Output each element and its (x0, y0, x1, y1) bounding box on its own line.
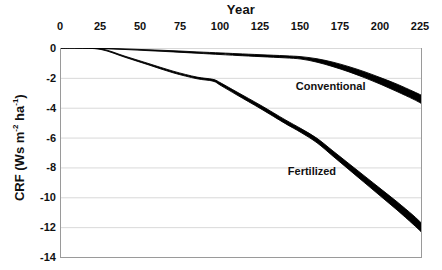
x-tick-label-175: 175 (331, 20, 349, 32)
y-tick-label--6: -6 (46, 132, 56, 144)
series-label-fertilized: Fertilized (288, 165, 336, 177)
y-axis-tick-labels: 0-2-4-6-8-10-12-14 (0, 0, 56, 270)
y-tick-label--14: -14 (40, 251, 56, 263)
y-tick-label--4: -4 (46, 102, 56, 114)
x-tick-label-75: 75 (174, 20, 186, 32)
x-tick-label-100: 100 (211, 20, 229, 32)
y-tick-label--2: -2 (46, 72, 56, 84)
y-axis-title-exponent-2: -1 (11, 99, 20, 106)
chart-x-axis-title: Year (60, 2, 422, 17)
y-axis-title-suffix: ) (12, 94, 27, 98)
x-tick-label-50: 50 (134, 20, 146, 32)
x-tick-label-150: 150 (291, 20, 309, 32)
y-tick-label--10: -10 (40, 191, 56, 203)
plot-svg (61, 48, 421, 257)
y-axis-title-exponent-1: -2 (11, 125, 20, 132)
y-tick-label-0: 0 (50, 42, 56, 54)
x-tick-label-125: 125 (251, 20, 269, 32)
series-label-conventional: Conventional (296, 80, 366, 92)
crf-year-chart: Year 0255075100125150175200225 0-2-4-6-8… (0, 0, 442, 270)
y-tick-label--12: -12 (40, 221, 56, 233)
plot-area: Conventional Fertilized (60, 48, 422, 258)
y-axis-title-middle: ha (12, 106, 27, 125)
series-layer (61, 48, 421, 232)
x-tick-label-25: 25 (94, 20, 106, 32)
x-tick-label-225: 225 (411, 20, 429, 32)
y-tick-label--8: -8 (46, 161, 56, 173)
x-tick-label-0: 0 (57, 20, 63, 32)
x-tick-label-200: 200 (371, 20, 389, 32)
chart-y-axis-title: CRF (Ws m-2 ha-1) (11, 43, 26, 253)
y-axis-title-prefix: CRF (Ws m (12, 132, 27, 201)
